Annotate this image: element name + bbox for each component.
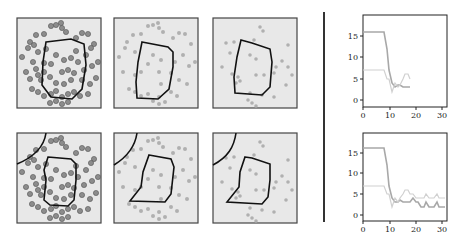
panel-top-3	[212, 17, 298, 109]
panel-top-2	[113, 17, 199, 109]
scatter-panel	[16, 17, 102, 109]
y-tick: 15	[348, 149, 358, 158]
x-tick: 30	[437, 225, 447, 234]
y-tick: 10	[348, 53, 358, 62]
y-tick: 0	[353, 211, 358, 220]
vertical-divider	[323, 12, 325, 222]
scatter-panel	[212, 17, 298, 109]
panel-bottom-3	[212, 132, 298, 224]
series-light-line	[363, 186, 445, 207]
y-tick: 15	[348, 32, 358, 41]
scatter-panel	[113, 17, 199, 109]
y-tick: 5	[353, 75, 358, 84]
y-tick: 0	[353, 96, 358, 105]
y-tick: 5	[353, 190, 358, 199]
line-chart-bottom: 0 5 10 15 0 10 20 30	[330, 118, 464, 243]
scatter-panel	[212, 132, 298, 224]
x-tick: 10	[385, 225, 395, 234]
panel-bottom-2	[113, 132, 199, 224]
x-tick: 20	[411, 225, 421, 234]
scatter-panel	[113, 132, 199, 224]
y-tick: 10	[348, 169, 358, 178]
series-light-line	[363, 70, 410, 92]
line-chart-top: 0 5 10 15 0 10 20 30	[330, 0, 464, 125]
panel-top-1	[16, 17, 102, 109]
x-tick: 0	[360, 225, 365, 234]
scatter-panel	[16, 132, 102, 224]
panel-bottom-1	[16, 132, 102, 224]
